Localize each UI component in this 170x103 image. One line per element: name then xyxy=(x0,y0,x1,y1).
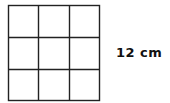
grid-vertical-lines xyxy=(39,6,70,101)
grid-outline xyxy=(9,6,100,101)
grid-horizontal-lines xyxy=(9,38,100,70)
side-length-label: 12 cm xyxy=(116,45,162,60)
